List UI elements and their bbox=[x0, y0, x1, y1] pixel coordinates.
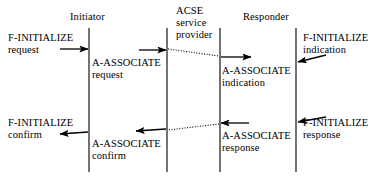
msg-line1: F-INITIALIZE bbox=[8, 32, 73, 43]
acse-header-line3: provider bbox=[176, 29, 212, 41]
lifeline-header-responder: Responder bbox=[243, 11, 289, 23]
msg-line2: request bbox=[8, 44, 73, 56]
msg-line2: confirm bbox=[8, 129, 73, 141]
msg-line2: indication bbox=[303, 44, 368, 56]
msg-line2: response bbox=[303, 129, 368, 141]
msg-line2: confirm bbox=[92, 150, 161, 162]
acse-header-line2: service bbox=[176, 17, 212, 29]
message-label-a-associate-indication: A-ASSOCIATE indication bbox=[222, 65, 291, 89]
message-label-f-initialize-response: F-INITIALIZE response bbox=[303, 117, 368, 141]
acse-header-line1: ACSE bbox=[176, 5, 203, 16]
message-label-f-initialize-indication: F-INITIALIZE indication bbox=[303, 32, 368, 56]
msg-line1: A-ASSOCIATE bbox=[222, 65, 291, 76]
arrow-a-associate-confirm bbox=[136, 129, 166, 131]
arrow-f-initialize-indication bbox=[298, 55, 326, 62]
msg-line2: indication bbox=[222, 77, 291, 89]
lifeline-header-acse: ACSE service provider bbox=[176, 5, 212, 40]
message-label-f-initialize-confirm: F-INITIALIZE confirm bbox=[8, 117, 73, 141]
message-label-a-associate-confirm: A-ASSOCIATE confirm bbox=[92, 138, 161, 162]
arrow-acse-transfer-up bbox=[168, 124, 219, 130]
msg-line2: response bbox=[222, 142, 291, 154]
msg-line1: A-ASSOCIATE bbox=[92, 138, 161, 149]
msg-line2: request bbox=[92, 69, 161, 81]
message-label-f-initialize-request: F-INITIALIZE request bbox=[8, 32, 73, 56]
lifeline-header-initiator: Initiator bbox=[70, 11, 105, 23]
message-label-a-associate-response: A-ASSOCIATE response bbox=[222, 130, 291, 154]
msg-line1: F-INITIALIZE bbox=[8, 117, 73, 128]
msg-line1: F-INITIALIZE bbox=[303, 32, 368, 43]
msg-line1: F-INITIALIZE bbox=[303, 117, 368, 128]
msg-line1: A-ASSOCIATE bbox=[222, 130, 291, 141]
sequence-diagram: Initiator ACSE service provider Responde… bbox=[0, 0, 386, 179]
msg-line1: A-ASSOCIATE bbox=[92, 57, 161, 68]
message-label-a-associate-request: A-ASSOCIATE request bbox=[92, 57, 161, 81]
arrow-acse-transfer-down bbox=[168, 49, 219, 56]
